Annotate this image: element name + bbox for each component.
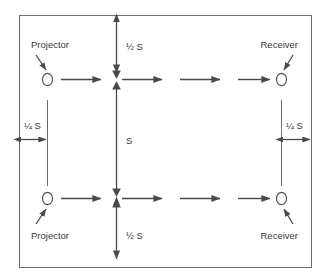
- label-quarter-s-left: ¼ S: [24, 120, 41, 131]
- diagram-root: Projector Receiver Projector Receiver ½ …: [0, 0, 328, 279]
- label-quarter-s-right: ¼ S: [286, 120, 303, 131]
- label-top-left-projector: Projector: [31, 39, 69, 50]
- label-bottom-right-receiver: Receiver: [261, 230, 299, 241]
- spacing-diagram: Projector Receiver Projector Receiver ½ …: [0, 0, 328, 279]
- label-full-s: S: [126, 135, 132, 146]
- label-half-s-top: ½ S: [126, 41, 143, 52]
- label-top-right-receiver: Receiver: [261, 39, 299, 50]
- label-half-s-bottom: ½ S: [126, 230, 143, 241]
- label-bottom-left-projector: Projector: [31, 230, 69, 241]
